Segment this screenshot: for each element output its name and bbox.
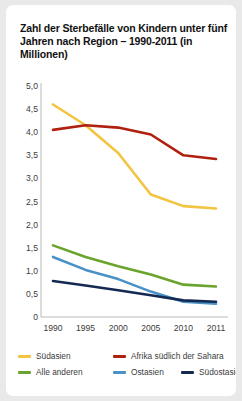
x-axis-tick: 2000 [109,323,128,333]
legend-color-swatch [181,371,194,374]
chart-legend: SüdasienAfrika südlich der SaharaAlle an… [18,351,230,385]
legend-item[interactable]: Ostasien [113,367,164,377]
chart-plot-area [6,75,236,337]
chart-title: Zahl der Sterbefälle von Kindern unter f… [20,22,228,62]
legend-label: Südasien [36,351,71,361]
x-axis-tick: 1995 [76,323,95,333]
legend-color-swatch [18,371,31,374]
x-axis-tick: 2011 [207,323,225,333]
legend-item[interactable]: Südostasien [181,367,236,377]
axis-lines [41,83,228,317]
legend-label: Ostasien [131,367,164,377]
x-axis-tick-labels: 199019952000200520102011 [6,323,236,339]
x-axis-tick: 1990 [43,323,62,333]
legend-label: Alle anderen [36,367,83,377]
legend-label: Afrika südlich der Sahara [131,351,224,361]
legend-item[interactable]: Alle anderen [18,367,83,377]
x-axis-tick: 2005 [141,323,160,333]
x-axis-tick: 2010 [174,323,193,333]
legend-item[interactable]: Afrika südlich der Sahara [113,351,224,361]
legend-item[interactable]: Südasien [18,351,71,361]
series-paths [53,104,216,303]
series-line [53,125,216,159]
series-line [53,257,216,304]
line-chart-svg [6,75,236,337]
legend-color-swatch [113,371,126,374]
legend-label: Südostasien [199,367,236,377]
chart-card: Zahl der Sterbefälle von Kindern unter f… [6,5,236,396]
legend-color-swatch [18,355,31,358]
legend-color-swatch [113,355,126,358]
